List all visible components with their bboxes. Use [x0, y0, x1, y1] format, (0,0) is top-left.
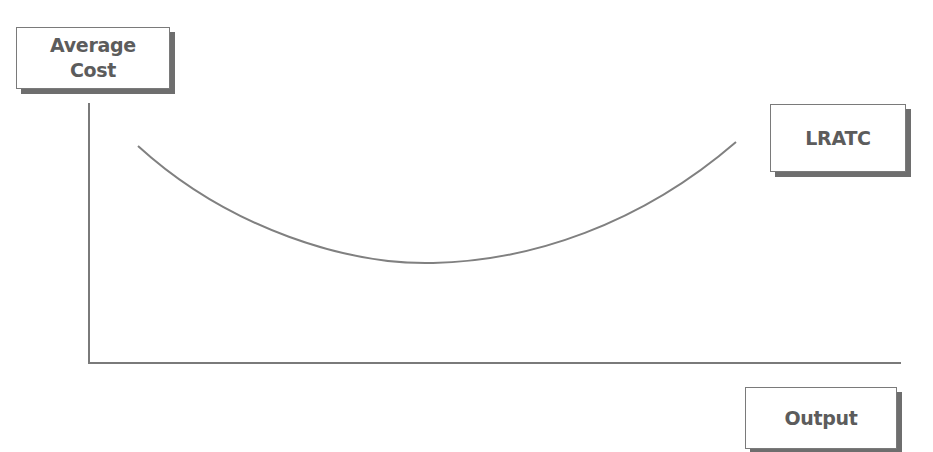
y-axis-label-line2: Cost: [70, 58, 116, 83]
y-axis-label-box: Average Cost: [16, 27, 170, 89]
lratc-curve: [138, 142, 736, 263]
curve-label-box: LRATC: [770, 104, 906, 172]
x-axis-label-box: Output: [745, 387, 897, 449]
y-axis-label-line1: Average: [50, 33, 136, 58]
curve-label: LRATC: [805, 126, 870, 151]
x-axis-label: Output: [784, 406, 857, 431]
